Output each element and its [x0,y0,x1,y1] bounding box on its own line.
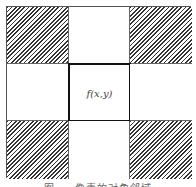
cell-top-right-diagonal [130,7,192,64]
figure-caption: 图 ... 像素的对角邻域 [0,180,196,187]
cell-bottom-left-diagonal [7,121,69,179]
center-pixel-label: f(x,y) [70,87,129,98]
neighborhood-grid: f(x,y) [6,6,191,178]
cell-right [130,64,192,121]
cell-bottom [69,121,130,179]
cell-center: f(x,y) [68,63,131,122]
cell-top [69,7,130,64]
cell-top-left-diagonal [7,7,69,64]
cell-left [7,64,69,121]
cell-bottom-right-diagonal [130,121,192,179]
